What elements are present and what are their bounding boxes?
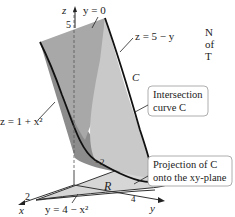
y-axis-arrow-icon [158,197,165,203]
label-y0: y = 0 [83,4,106,16]
label-region-r: R [103,179,112,193]
z-axis-arrow-icon [73,6,77,12]
label-y-4-minus-x2: y = 4 − x² [45,203,89,215]
side-text-line3: T [205,50,212,62]
z-axis-label: z [61,4,67,16]
diagram-canvas: z 5 y = 0 z = 5 − y C z = 1 + x² −2 R 2 … [0,0,235,217]
label-z-1-plus-x2: z = 1 + x² [0,115,43,127]
leader-intersection [135,105,148,112]
label-z-5-minus-y: z = 5 − y [135,30,175,42]
leader-z5y [120,38,133,52]
callout-projection-line1: Projection of C [153,159,217,170]
x-tick-2: 2 [25,191,30,202]
callout-projection-line2: onto the xy-plane [153,172,227,183]
side-text-line1: N [205,26,213,38]
leader-parabolic [38,102,55,120]
z-tick-5: 5 [66,19,71,30]
y-tick-4: 4 [131,194,136,204]
label-curve-c: C [132,71,140,83]
callout-intersection-line1: Intersection [153,89,203,100]
y-tick-neg2: −2 [95,157,105,167]
y-axis-label: y [149,202,155,214]
x-axis-label: x [18,204,24,216]
side-text-line2: of [205,38,214,50]
callout-intersection-line2: curve C [153,102,186,113]
